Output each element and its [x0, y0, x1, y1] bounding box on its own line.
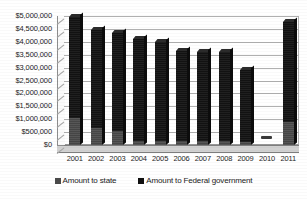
legend-item[interactable]: Amount to state — [55, 176, 117, 185]
x-axis-tick-label: 2005 — [149, 154, 171, 164]
bar-segment-state — [197, 141, 208, 145]
bar-group[interactable] — [261, 16, 272, 145]
x-axis-tick-label: 2003 — [106, 154, 128, 164]
bar-group[interactable] — [112, 16, 123, 145]
bar-group[interactable] — [69, 16, 80, 145]
bar-segment-federal — [112, 33, 123, 131]
bar-segment-federal — [91, 30, 102, 128]
legend-item[interactable]: Amount to Federal government — [138, 176, 252, 185]
bar-group[interactable] — [283, 16, 294, 145]
y-axis-tick-label: $4,000,000 — [15, 38, 52, 46]
bar-segment-state — [283, 122, 294, 145]
bar-column[interactable] — [155, 42, 166, 145]
bar-segment-state — [176, 141, 187, 145]
bar-group[interactable] — [176, 16, 187, 145]
bar-segment-state — [91, 128, 102, 145]
bar-segment-state — [240, 142, 251, 145]
y-axis-tick-label: $1,000,000 — [15, 115, 52, 123]
bar-column[interactable] — [91, 30, 102, 145]
bar-segment-federal — [240, 70, 251, 142]
legend-swatch-icon — [138, 178, 144, 184]
bar-group[interactable] — [155, 16, 166, 145]
legend-swatch-icon — [55, 178, 61, 184]
bar-zero-marker — [261, 136, 272, 139]
bar-segment-state — [69, 118, 80, 145]
x-axis-tick-label: 2001 — [64, 154, 86, 164]
x-axis-tick-label: 2008 — [213, 154, 235, 164]
bar-column[interactable] — [69, 17, 80, 145]
legend-label: Amount to state — [63, 176, 117, 185]
x-axis-tick-label: 2011 — [277, 154, 299, 164]
y-axis-tick-label: $1,500,000 — [15, 102, 52, 110]
x-axis-tick-label: 2007 — [192, 154, 214, 164]
y-axis-tick-label: $2,500,000 — [15, 77, 52, 85]
bar-column[interactable] — [197, 52, 208, 145]
x-axis-tick-label: 2006 — [171, 154, 193, 164]
bars-layer — [57, 16, 299, 153]
x-axis-tick-label: 2010 — [256, 154, 278, 164]
y-axis-tick-label: $2,000,000 — [15, 89, 52, 97]
chart-legend: Amount to stateAmount to Federal governm… — [0, 176, 307, 185]
y-axis-tick-label: $4,500,000 — [15, 25, 52, 33]
bar-segment-federal — [133, 39, 144, 141]
bar-column[interactable] — [240, 70, 251, 145]
bar-group[interactable] — [219, 16, 230, 145]
bar-column[interactable] — [112, 33, 123, 145]
bar-segment-federal — [69, 17, 80, 118]
y-axis-tick-label: $3,000,000 — [15, 64, 52, 72]
bar-segment-state — [133, 141, 144, 145]
y-axis-tick-label: $0 — [44, 141, 52, 149]
plot-area — [57, 16, 299, 152]
bar-group[interactable] — [197, 16, 208, 145]
y-axis-tick-label: $5,000,000 — [15, 12, 52, 20]
bar-segment-state — [112, 131, 123, 145]
x-axis-labels: 2001200220032004200520062007200820092010… — [57, 154, 299, 166]
x-axis-tick-label: 2009 — [235, 154, 257, 164]
bar-group[interactable] — [240, 16, 251, 145]
bar-segment-state — [155, 141, 166, 145]
chart-container: $5,000,000$4,500,000$4,000,000$3,500,000… — [0, 0, 307, 199]
bar-column[interactable] — [176, 51, 187, 145]
bar-group[interactable] — [91, 16, 102, 145]
bar-column[interactable] — [219, 52, 230, 145]
bar-segment-federal — [176, 51, 187, 141]
bar-group[interactable] — [133, 16, 144, 145]
bar-column[interactable] — [133, 39, 144, 145]
y-axis-tick-label: $500,000 — [22, 128, 52, 136]
bar-segment-state — [219, 141, 230, 145]
bar-segment-federal — [219, 52, 230, 141]
x-axis-tick-label: 2004 — [128, 154, 150, 164]
bar-segment-federal — [155, 42, 166, 141]
legend-label: Amount to Federal government — [146, 176, 252, 185]
x-axis-tick-label: 2002 — [85, 154, 107, 164]
bar-segment-federal — [283, 22, 294, 121]
bar-segment-federal — [197, 52, 208, 141]
y-axis-tick-label: $3,500,000 — [15, 51, 52, 59]
y-axis-labels: $5,000,000$4,500,000$4,000,000$3,500,000… — [0, 0, 55, 199]
bar-column[interactable] — [283, 22, 294, 145]
